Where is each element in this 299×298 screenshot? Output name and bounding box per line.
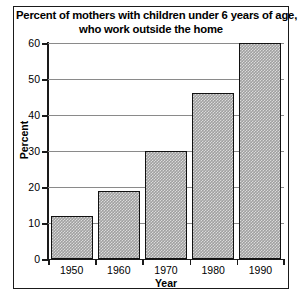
- x-tick-label-1980: 1980: [189, 265, 237, 276]
- chart-title-line-1: Percent of mothers with children under 6…: [16, 9, 286, 23]
- chart-title-line-2: who work outside the home: [16, 23, 286, 37]
- y-tick-label-20: 20: [18, 182, 40, 193]
- x-tick-label-1950: 1950: [48, 265, 96, 276]
- x-axis-title: Year: [48, 277, 284, 289]
- bar-1990[interactable]: [239, 43, 281, 259]
- bar-1970[interactable]: [145, 151, 187, 259]
- x-tick-label-1960: 1960: [95, 265, 143, 276]
- x-tick-label-1990: 1990: [236, 265, 284, 276]
- bar-chart-figure: Percent of mothers with children under 6…: [0, 0, 299, 298]
- y-tick-label-50: 50: [18, 74, 40, 85]
- x-tick-label-1970: 1970: [142, 265, 190, 276]
- y-tick-label-30: 30: [18, 146, 40, 157]
- y-tick-label-40: 40: [18, 110, 40, 121]
- bar-1950[interactable]: [51, 216, 93, 259]
- bar-1980[interactable]: [192, 93, 234, 259]
- y-axis-tick-labels: 60 50 40 30 20 10 0: [15, 0, 40, 298]
- y-tick-label-10: 10: [18, 218, 40, 229]
- bar-1960[interactable]: [98, 191, 140, 259]
- chart-title: Percent of mothers with children under 6…: [16, 9, 286, 36]
- plot-area: [48, 43, 284, 259]
- y-tick-label-0: 0: [18, 254, 40, 265]
- y-tick-label-60: 60: [18, 38, 40, 49]
